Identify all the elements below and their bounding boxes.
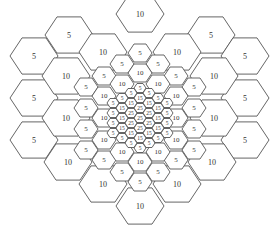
hex-cell: 25 <box>134 114 146 123</box>
hex-cell-label: 5 <box>102 156 106 164</box>
hex-grid-canvas: 5555105555101010101010101010101055555555… <box>0 0 280 233</box>
hex-cell-label: 5 <box>156 60 160 68</box>
hex-cell-label: 5 <box>166 130 169 136</box>
hex-cell-label: 5 <box>138 178 142 186</box>
hex-cell-label: 5 <box>209 31 213 40</box>
hex-cell-label: 25 <box>137 125 143 131</box>
hex-cell-label: 10 <box>64 158 72 167</box>
hex-cell-label: 5 <box>166 110 169 116</box>
hex-cell-label: 5 <box>84 125 88 133</box>
hex-cell: 5 <box>134 144 146 153</box>
hex-cell-label: 15 <box>137 135 143 141</box>
hex-cell-label: 10 <box>173 114 181 122</box>
hex-cell-label: 10 <box>101 136 109 144</box>
hex-cell: 25 <box>134 124 146 133</box>
hex-cell-label: 5 <box>174 156 178 164</box>
hex-cell-label: 10 <box>155 148 163 156</box>
hex-cell: 10 <box>116 0 164 32</box>
hex-cell-label: 25 <box>146 110 152 116</box>
hex-cell-label: 5 <box>243 136 247 145</box>
hex-cell-label: 10 <box>137 69 145 77</box>
hex-cell-label: 25 <box>128 120 134 126</box>
hex-cell-label: 5 <box>130 90 133 96</box>
hex-cell-label: 10 <box>136 202 144 211</box>
hex-cell-label: 5 <box>157 95 160 101</box>
hex-cell-label: 15 <box>128 130 134 136</box>
hex-cell-label: 5 <box>139 145 142 151</box>
hex-cell-label: 15 <box>119 115 125 121</box>
hex-cell-label: 5 <box>121 95 124 101</box>
hex-cell-label: 5 <box>138 49 142 57</box>
hex-cell-label: 10 <box>137 158 145 166</box>
hex-cell-label: 10 <box>119 80 127 88</box>
hex-cell-label: 10 <box>62 114 70 123</box>
hex-cell-label: 5 <box>243 94 247 103</box>
hex-cell-label: 5 <box>67 31 71 40</box>
hex-cell-label: 5 <box>32 52 36 61</box>
hex-cell-label: 10 <box>173 48 181 57</box>
hex-cell: 5 <box>128 44 152 62</box>
hex-cell-label: 15 <box>155 105 161 111</box>
hex-cell-label: 5 <box>84 83 88 91</box>
hex-cell-label: 5 <box>120 60 124 68</box>
hex-cell-label: 25 <box>146 120 152 126</box>
hex-cell-label: 5 <box>102 72 106 80</box>
hex-cell-label: 15 <box>119 125 125 131</box>
hex-cell-label: 10 <box>210 114 218 123</box>
hex-cell-label: 10 <box>155 80 163 88</box>
hex-cell-label: 5 <box>148 140 151 146</box>
hex-cell-label: 25 <box>137 115 143 121</box>
hex-cell-label: 5 <box>157 135 160 141</box>
hex-cell-label: 10 <box>136 10 144 19</box>
hex-cell-label: 15 <box>137 95 143 101</box>
hex-cell-label: 5 <box>112 130 115 136</box>
hex-cell-label: 5 <box>130 140 133 146</box>
hex-cell-label: 15 <box>128 100 134 106</box>
hex-cell-label: 15 <box>146 100 152 106</box>
hex-cell-label: 25 <box>137 105 143 111</box>
hex-cell-label: 5 <box>32 136 36 145</box>
hex-cell-label: 5 <box>84 146 88 154</box>
hex-cell-label: 5 <box>166 100 169 106</box>
hex-grid-diagram: 5555105555101010101010101010101055555555… <box>0 0 280 233</box>
hex-cell-label: 15 <box>155 115 161 121</box>
hex-cell-label: 5 <box>32 94 36 103</box>
hex-cell-label: 5 <box>120 168 124 176</box>
hex-cell-label: 15 <box>119 105 125 111</box>
hex-cell-label: 5 <box>192 146 196 154</box>
hex-cell-label: 10 <box>208 158 216 167</box>
hex-cell-label: 5 <box>112 110 115 116</box>
hex-cell-label: 5 <box>192 104 196 112</box>
hex-cell-label: 10 <box>99 180 107 189</box>
hex-cell-label: 5 <box>112 120 115 126</box>
hex-cell-label: 5 <box>166 120 169 126</box>
hex-cell-label: 5 <box>192 83 196 91</box>
hex-cell-label: 10 <box>99 48 107 57</box>
hex-cell-label: 25 <box>128 110 134 116</box>
hex-cell: 15 <box>134 134 146 143</box>
hex-cell-label: 5 <box>139 85 142 91</box>
hex-cell-label: 10 <box>173 180 181 189</box>
hex-cell-label: 5 <box>148 90 151 96</box>
hex-cell-label: 10 <box>119 148 127 156</box>
hex-cell-label: 5 <box>192 125 196 133</box>
hex-cell-label: 10 <box>62 72 70 81</box>
hex-cell-label: 5 <box>121 135 124 141</box>
hex-cell-label: 10 <box>173 92 181 100</box>
hex-cell-label: 15 <box>146 130 152 136</box>
hex-cell-label: 5 <box>174 72 178 80</box>
hex-cell-label: 5 <box>243 52 247 61</box>
hex-cell-label: 5 <box>112 100 115 106</box>
hex-cell-label: 10 <box>173 136 181 144</box>
hex-cell-label: 15 <box>155 125 161 131</box>
hex-cell-label: 5 <box>156 168 160 176</box>
hex-cell-label: 10 <box>101 114 109 122</box>
hex-cell-label: 10 <box>101 92 109 100</box>
hex-cell: 10 <box>116 188 164 224</box>
hex-cell-label: 10 <box>210 72 218 81</box>
hex-cell-label: 5 <box>84 104 88 112</box>
